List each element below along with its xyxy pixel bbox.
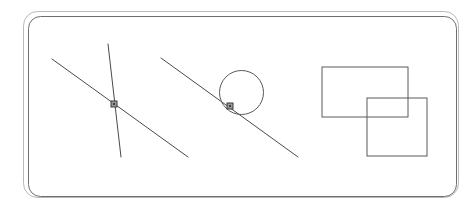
rectangle-upper-left[interactable]	[322, 67, 408, 117]
drawing-canvas[interactable]	[0, 0, 474, 208]
line-a-long-diagonal[interactable]	[52, 59, 188, 157]
rectangles-group	[322, 67, 427, 156]
geometry-svg	[0, 0, 474, 208]
markers-group	[111, 101, 233, 109]
intersection-marker-left-center-dot-icon	[113, 103, 115, 105]
frame-outer-border	[24, 12, 459, 198]
intersection-marker-circle-center-dot-icon	[229, 105, 231, 107]
circles-group	[220, 71, 264, 115]
frame-inner-border	[29, 17, 457, 197]
intersection-marker-left[interactable]	[111, 101, 117, 107]
circle-main[interactable]	[220, 71, 264, 115]
rectangle-lower-right[interactable]	[367, 98, 427, 156]
intersection-marker-circle[interactable]	[227, 103, 233, 109]
lines-group	[52, 44, 298, 157]
